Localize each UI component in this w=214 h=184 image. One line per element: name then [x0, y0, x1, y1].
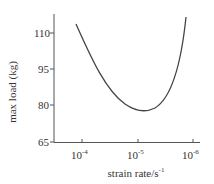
data-curve	[76, 17, 186, 111]
y-tick-label: 65	[38, 137, 49, 148]
y-tick-label: 95	[38, 64, 49, 75]
y-tick-label: 110	[34, 28, 50, 39]
x-ticks	[82, 139, 193, 142]
y-ticks	[50, 33, 54, 142]
y-tick-label: 80	[38, 100, 49, 111]
x-tick-label: 10-5	[127, 149, 144, 161]
x-axis-label: strain rate/s-1	[108, 166, 165, 179]
y-axis-label: max load (kg)	[6, 61, 18, 123]
x-tick-label: 10-6	[182, 149, 199, 161]
x-tick-label: 10-4	[71, 149, 88, 161]
